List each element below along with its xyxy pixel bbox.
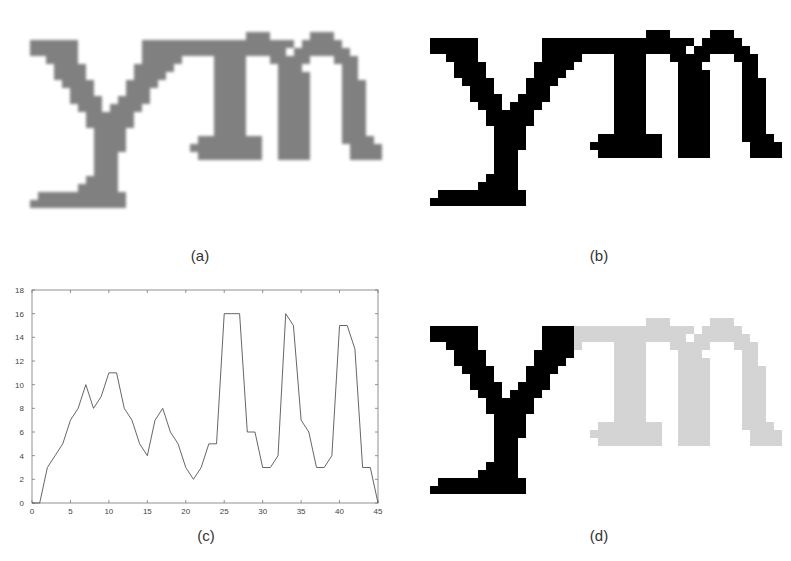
segmented-ym-image bbox=[430, 318, 782, 502]
caption-d: (d) bbox=[579, 527, 619, 544]
panel-d-segmented: (d) bbox=[0, 0, 791, 561]
